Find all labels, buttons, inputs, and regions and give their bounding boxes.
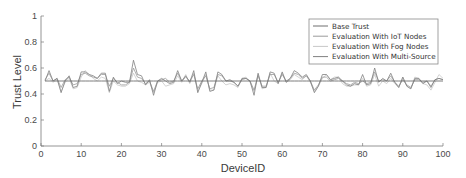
y-tick-label: 0.4	[24, 89, 37, 99]
legend-item: Evaluation With Multi-Source	[313, 52, 436, 61]
x-axis-ticks: 0102030405060708090100	[38, 143, 450, 159]
legend-label: Evaluation With Fog Nodes	[332, 42, 429, 51]
x-tick-label: 10	[76, 149, 86, 159]
legend: Base TrustEvaluation With IoT NodesEvalu…	[309, 19, 438, 64]
y-tick-label: 0.2	[24, 115, 37, 125]
x-tick-label: 0	[38, 149, 43, 159]
series-line-evaluation-with-fog-nodes	[45, 71, 443, 93]
legend-label: Evaluation With Multi-Source	[332, 52, 436, 61]
trust-level-line-chart: 0102030405060708090100 00.20.40.60.81 De…	[0, 0, 466, 178]
y-tick-label: 0.8	[24, 37, 37, 47]
legend-label: Evaluation With IoT Nodes	[332, 32, 427, 41]
x-tick-label: 30	[157, 149, 167, 159]
y-axis-label: Trust Level	[11, 55, 23, 109]
x-tick-label: 90	[398, 149, 408, 159]
x-tick-label: 100	[435, 149, 450, 159]
series-line-evaluation-with-iot-nodes	[45, 68, 443, 91]
x-tick-label: 60	[277, 149, 287, 159]
y-tick-label: 1	[32, 11, 37, 21]
x-tick-label: 70	[317, 149, 327, 159]
x-axis-label: DeviceID	[221, 162, 266, 174]
y-tick-label: 0.6	[24, 63, 37, 73]
y-tick-label: 0	[32, 141, 37, 151]
legend-label: Base Trust	[332, 22, 369, 31]
plot-lines	[45, 60, 443, 95]
x-tick-label: 40	[197, 149, 207, 159]
x-tick-label: 80	[358, 149, 368, 159]
x-tick-label: 20	[116, 149, 126, 159]
x-tick-label: 50	[237, 149, 247, 159]
